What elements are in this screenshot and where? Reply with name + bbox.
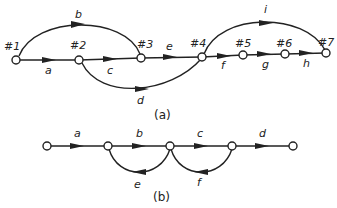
node-5 [239, 51, 247, 59]
edge-label: a [45, 64, 52, 77]
edge-label: i [264, 3, 267, 16]
node-1 [12, 56, 20, 64]
node-label: #5 [235, 37, 251, 50]
edge-label: f [197, 176, 203, 189]
arrow-a-icon [42, 57, 56, 63]
edge-label: e [134, 178, 141, 191]
arrow-e-icon [163, 54, 177, 60]
edge-e [109, 149, 170, 172]
edge-label: h [303, 57, 310, 70]
edge-i [204, 22, 325, 54]
node-label: #3 [137, 38, 153, 51]
node-label: #4 [190, 37, 206, 50]
arrow-h-icon [299, 50, 313, 56]
node [43, 142, 51, 150]
arrow-i-icon [259, 20, 273, 26]
node-4 [198, 53, 206, 61]
edge-label: b [75, 8, 82, 21]
node-7 [322, 49, 330, 57]
node [228, 142, 236, 150]
edge-label: b [136, 127, 143, 140]
node [104, 142, 112, 150]
arrow-d-icon [255, 143, 269, 149]
edge-label: g [262, 58, 269, 71]
edge-label: d [137, 94, 145, 107]
caption-b: (b) [153, 190, 170, 204]
arrow-c-icon [194, 143, 208, 149]
caption-a: (a) [154, 108, 171, 122]
arrow-e-icon [132, 169, 146, 175]
node [289, 142, 297, 150]
arrow-g-icon [257, 51, 271, 57]
arrow-a-icon [70, 143, 84, 149]
arrow-f-icon [194, 169, 208, 175]
node [166, 142, 174, 150]
node-label: #7 [318, 36, 334, 49]
node-3 [137, 54, 145, 62]
figure-b: a b c d e f (b) [43, 127, 297, 204]
signal-flow-diagrams: #1 #2 #3 #4 #5 #6 #7 a b c d e f g h i (… [0, 0, 337, 208]
edge-label: d [259, 127, 267, 140]
edge-f [171, 149, 232, 172]
arrow-b-icon [71, 21, 85, 28]
edge-label: e [166, 40, 173, 53]
arrow-c-icon [103, 56, 117, 62]
arrow-b-icon [132, 143, 146, 149]
node-label: #1 [4, 40, 20, 53]
node-2 [75, 56, 83, 64]
edge-label: f [221, 59, 227, 72]
figure-a: #1 #2 #3 #4 #5 #6 #7 a b c d e f g h i (… [4, 3, 334, 122]
node-label: #6 [276, 37, 292, 50]
node-label: #2 [70, 39, 86, 52]
edge-label: a [74, 127, 81, 140]
edge-label: c [107, 64, 113, 77]
node-6 [281, 50, 289, 58]
edge-label: c [197, 127, 203, 140]
